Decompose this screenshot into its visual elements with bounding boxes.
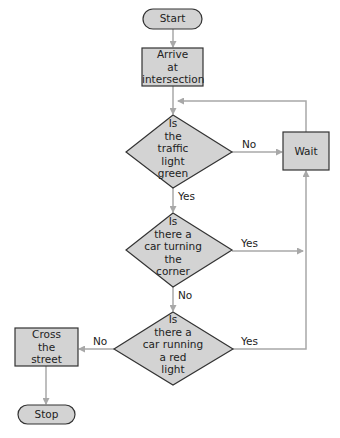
cross-line-2: the (15, 341, 78, 354)
edge-label-green-yes: Yes (178, 190, 195, 202)
q-running-line-5: light (129, 363, 217, 376)
edge-label-green-no: No (242, 138, 256, 150)
q-green-line-2: the (133, 130, 213, 143)
q-running-line-1: Is (129, 313, 217, 326)
cross-line-3: street (15, 353, 78, 366)
q-turning-line-1: Is (129, 215, 217, 228)
q-turning-line-4: the (129, 253, 217, 266)
arrive-line-1: Arrive (142, 48, 203, 61)
arrive-line-3: intersection (142, 73, 203, 86)
edge-label-running-no: No (93, 335, 107, 347)
q-green-line-5: green (133, 167, 213, 180)
car-running-red-label: Is there a car running a red light (129, 313, 217, 376)
arrow-running-yes-to-wait (233, 171, 306, 349)
edge-label-running-yes: Yes (241, 335, 258, 347)
q-turning-line-2: there a (129, 228, 217, 241)
stop-label: Stop (18, 408, 75, 421)
q-running-line-2: there a (129, 326, 217, 339)
q-turning-line-3: car turning (129, 240, 217, 253)
q-turning-line-5: corner (129, 265, 217, 278)
edge-label-turning-yes: Yes (241, 237, 258, 249)
q-green-line-4: light (133, 155, 213, 168)
arrive-line-2: at (142, 61, 203, 74)
wait-label: Wait (283, 145, 329, 158)
q-green-line-1: Is (133, 117, 213, 130)
start-label: Start (143, 12, 202, 25)
traffic-light-green-label: Is the traffic light green (133, 117, 213, 180)
edge-label-turning-no: No (178, 289, 192, 301)
car-turning-label: Is there a car turning the corner (129, 215, 217, 278)
cross-line-1: Cross (15, 328, 78, 341)
arrive-label: Arrive at intersection (142, 48, 203, 86)
cross-street-label: Cross the street (15, 328, 78, 366)
q-green-line-3: traffic (133, 142, 213, 155)
q-running-line-4: a red (129, 351, 217, 364)
q-running-line-3: car running (129, 338, 217, 351)
